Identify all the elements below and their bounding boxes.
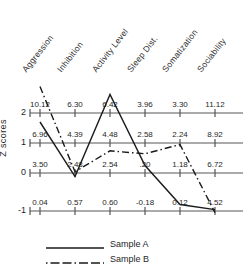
category-header-somatization: Somatization bbox=[160, 27, 200, 74]
legend: Sample ASample B bbox=[44, 236, 149, 266]
legend-item: Sample A bbox=[44, 236, 149, 251]
series-line-sample-b bbox=[40, 87, 215, 213]
category-header-inhibition: Inhibition bbox=[55, 40, 85, 75]
legend-swatch-sample-b bbox=[44, 254, 106, 264]
category-header-sleep-dist: Sleep Dist. bbox=[125, 34, 160, 74]
legend-label: Sample A bbox=[110, 239, 149, 249]
plot-svg bbox=[0, 78, 249, 218]
category-header-aggression: Aggression bbox=[20, 33, 55, 74]
chart-figure: AggressionInhibitionActivity LevelSleep … bbox=[0, 0, 249, 274]
category-header-sociability: Sociability bbox=[195, 36, 228, 74]
plot-area bbox=[0, 78, 249, 218]
legend-item: Sample B bbox=[44, 251, 149, 266]
legend-swatch-sample-a bbox=[44, 239, 106, 249]
legend-label: Sample B bbox=[110, 254, 149, 264]
